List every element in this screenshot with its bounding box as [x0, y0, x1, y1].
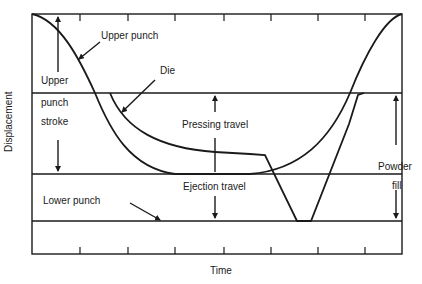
label-pressing-travel: Pressing travel [182, 120, 248, 130]
upper-punch-curve [32, 14, 402, 174]
label-lower-punch: Lower punch [43, 196, 100, 206]
label-ejection-travel: Ejection travel [183, 182, 246, 192]
label-upper: Upper [41, 76, 68, 86]
y-axis-label: Displacement [3, 91, 14, 152]
x-axis-label: Time [210, 266, 232, 276]
label-fill: fill [392, 181, 401, 191]
die-curve [110, 93, 364, 221]
upper-punch-pointer [79, 42, 100, 59]
label-powder: Powder [378, 162, 412, 172]
lower-punch-pointer [130, 203, 160, 220]
diagram-canvas [0, 0, 422, 284]
bottom-ticks [80, 247, 365, 254]
label-punch: punch [41, 98, 68, 108]
plot-frame [32, 14, 402, 254]
top-ticks [80, 14, 365, 21]
die-pointer [122, 80, 155, 112]
label-stroke: stroke [41, 117, 68, 127]
label-upper-punch: Upper punch [101, 31, 158, 41]
label-die: Die [160, 66, 175, 76]
